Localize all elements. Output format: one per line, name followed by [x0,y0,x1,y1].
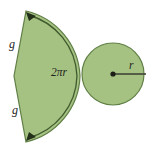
cone-net-diagram: g g 2πr r [0,0,163,152]
label-radius: r [129,59,134,71]
circle-center-dot [110,71,115,76]
label-slant-height-bottom: g [12,103,18,117]
label-slant-height-top: g [9,37,15,51]
label-arc-length: 2πr [51,66,68,78]
sector-shape [14,11,80,142]
geometry-figure-container: g g 2πr r [0,0,163,152]
